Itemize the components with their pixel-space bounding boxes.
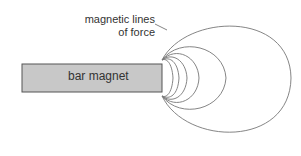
field-lines	[162, 26, 291, 132]
label-leader	[155, 24, 167, 30]
field-lines-label: magnetic lines of force	[65, 13, 155, 39]
field-label-line2: of force	[65, 26, 155, 39]
field-label-line1: magnetic lines	[65, 13, 155, 26]
magnet-label: bar magnet	[68, 70, 129, 83]
